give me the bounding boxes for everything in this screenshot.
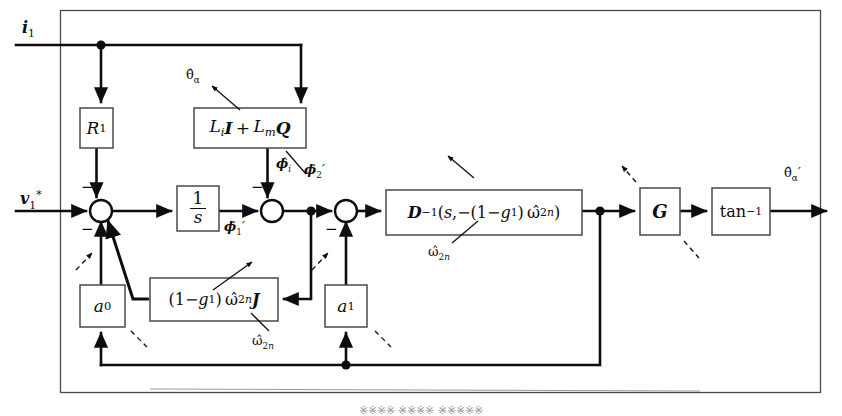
- block-gJ: [150, 278, 278, 321]
- sum1-sign-bottom: −: [81, 220, 94, 238]
- leader-sum1-pointer: [76, 253, 92, 270]
- leader-sum3-pointer: [312, 253, 328, 270]
- block-R1: [80, 108, 113, 148]
- block-Dinv: [386, 190, 582, 235]
- sum-junction-1: [90, 200, 112, 222]
- block-atan: [712, 188, 770, 235]
- sum-junction-2: [261, 200, 283, 222]
- block-a1: [325, 285, 367, 327]
- leader-G-up: [622, 166, 636, 182]
- leader-a1-down: [375, 331, 391, 347]
- leader-G-down: [684, 241, 699, 258]
- node-i1-tap: [96, 40, 105, 49]
- leader-a0-down: [131, 331, 147, 347]
- node-bottom: [341, 360, 350, 369]
- signal-label-i1: i1: [22, 20, 35, 40]
- signal-label-phi2-tilde: ϕ̃2′: [304, 163, 325, 179]
- sum-junction-3: [335, 200, 357, 222]
- block-LiI-LmQ: [194, 108, 306, 148]
- node-phi2: [306, 206, 315, 215]
- signal-label-phi1-tilde: ϕ̃1′: [224, 220, 245, 236]
- sum1-sign-top: −: [81, 178, 94, 196]
- figure-caption: ※※※※ ※※※※ ※※※※※: [0, 404, 842, 416]
- wire-phi2-down-to-gJ: [284, 211, 311, 299]
- sum2-sign-top: −: [251, 178, 264, 196]
- block-a0: [80, 285, 125, 327]
- node-dinv-out: [595, 206, 604, 215]
- leader-theta-to-LiILmQ: [212, 86, 240, 110]
- figure-canvas: R1 LiI + LmQ 1s D−1(s,−(1−g1) ω̂2n) G ta…: [0, 0, 842, 416]
- signal-label-v1star: v1*: [20, 190, 42, 211]
- leader-dinv-arrow-up: [448, 156, 474, 178]
- signal-label-theta-alpha-hat: θ̂α: [186, 68, 200, 84]
- block-G: [640, 188, 680, 235]
- diagram-svg: [0, 0, 842, 416]
- signal-label-w2n-gJ: ω̂2n: [252, 334, 274, 350]
- caption-rule: [150, 389, 700, 391]
- block-integrator: [177, 186, 219, 231]
- sum3-sign-bottom: −: [325, 220, 338, 238]
- signal-label-w2n-dinv: ω̂2n: [428, 245, 450, 261]
- signal-label-phi-i-hat: ϕ̂i: [276, 157, 291, 173]
- signal-label-theta-out: θ̂α′: [784, 166, 801, 182]
